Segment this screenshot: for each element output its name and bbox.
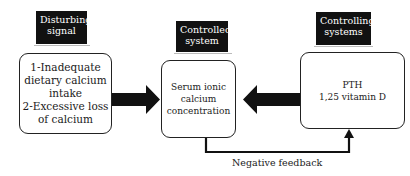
feedback-arrowhead: [344, 129, 354, 138]
arrow-disturbing-to-controlled: [112, 85, 160, 114]
arrows-layer: [0, 0, 410, 176]
feedback-line: [206, 136, 349, 152]
negative-feedback-label: Negative feedback: [232, 157, 322, 168]
arrow-controlling-to-controlled: [243, 85, 300, 114]
